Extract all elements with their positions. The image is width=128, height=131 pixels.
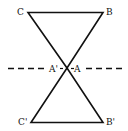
- label-C-prime: C': [18, 117, 27, 127]
- top-triangle: [28, 13, 103, 69]
- label-A: A: [73, 64, 81, 74]
- label-A-prime: A': [48, 64, 58, 74]
- label-B-prime: B': [106, 117, 115, 127]
- bottom-triangle: [31, 68, 103, 123]
- label-C: C: [17, 7, 24, 17]
- diagram-canvas: C B A' A C' B': [0, 0, 128, 131]
- label-B: B: [106, 7, 113, 17]
